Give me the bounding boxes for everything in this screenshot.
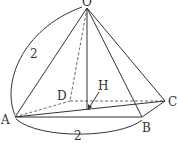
label-D: D <box>57 89 67 103</box>
label-O: O <box>82 0 92 9</box>
label-B: B <box>142 121 151 135</box>
edge-AD <box>15 101 70 117</box>
label-H: H <box>98 79 108 93</box>
label-OA-length: 2 <box>30 47 38 61</box>
diagonal-AC <box>15 101 165 117</box>
h-pointer-arrow <box>89 92 99 108</box>
dimension-arc-OA <box>11 7 82 115</box>
label-AB-length: 2 <box>74 129 82 143</box>
label-A: A <box>0 113 10 127</box>
pyramid-diagram: O A B C D H 2 2 <box>0 0 178 143</box>
edge-OD <box>70 8 87 101</box>
label-C: C <box>168 95 177 109</box>
